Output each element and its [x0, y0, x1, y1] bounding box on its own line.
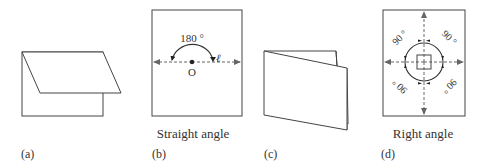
panel-label-c: (c): [264, 148, 277, 160]
caption-straight-angle: Straight angle: [157, 127, 230, 140]
panel-label-d: (d): [381, 148, 395, 160]
point-o: [190, 60, 194, 64]
panel-label-a: (a): [21, 148, 34, 160]
card-front-panel: [264, 51, 347, 130]
panel-a-folded-paper: [22, 52, 121, 116]
panel-b-straight-angle: [152, 10, 242, 116]
angle-label-180: 180 °: [180, 32, 204, 45]
caption-right-angle: Right angle: [393, 127, 453, 140]
paper-folded-flap: [22, 52, 121, 93]
paper-sheet: [152, 10, 242, 116]
diagram-canvas: 90 ° 90 ° 90 ° 90 °: [0, 0, 478, 168]
line-label-l: ℓ: [216, 52, 221, 64]
point-label-o: O: [188, 66, 196, 79]
panel-label-b: (b): [152, 148, 166, 160]
panel-d-right-angle: 90 ° 90 ° 90 ° 90 °: [383, 10, 465, 116]
panel-c-folded-card: [264, 51, 348, 130]
